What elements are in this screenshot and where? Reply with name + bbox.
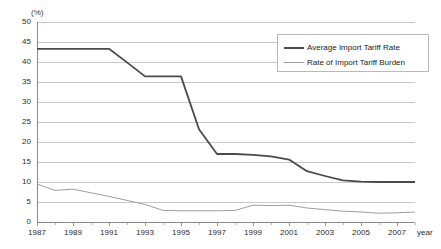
x-axis-tick-minor bbox=[199, 223, 200, 225]
x-axis-tick-major bbox=[253, 223, 254, 226]
x-axis-tick-major bbox=[397, 223, 398, 226]
y-axis-tick-label: 5 bbox=[7, 197, 31, 206]
x-axis-tick-minor bbox=[55, 223, 56, 225]
y-axis-tick-label: 20 bbox=[7, 137, 31, 146]
x-axis-tick-label: 1997 bbox=[197, 228, 237, 237]
x-axis-tick-label: 2001 bbox=[269, 228, 309, 237]
y-axis-tick-label: 45 bbox=[7, 37, 31, 46]
x-axis-tick-minor bbox=[343, 223, 344, 225]
x-axis-tick-major bbox=[109, 223, 110, 226]
x-axis-tick-major bbox=[73, 223, 74, 226]
x-axis-tick-minor bbox=[307, 223, 308, 225]
y-axis-tick-label: 50 bbox=[7, 17, 31, 26]
x-axis-tick-minor bbox=[415, 223, 416, 225]
x-axis-tick-minor bbox=[91, 223, 92, 225]
x-axis-title: year bbox=[417, 228, 433, 237]
legend-line-icon-primary bbox=[284, 47, 304, 49]
x-axis-tick-label: 1999 bbox=[233, 228, 273, 237]
legend-line-icon-secondary bbox=[284, 62, 304, 63]
x-axis-tick-label: 2007 bbox=[377, 228, 417, 237]
y-axis-tick-label: 35 bbox=[7, 77, 31, 86]
series-line bbox=[37, 184, 415, 213]
x-axis-tick-major bbox=[325, 223, 326, 226]
x-axis-tick-minor bbox=[271, 223, 272, 225]
legend-item-rate-of-import-tariff-burden: Rate of Import Tariff Burden bbox=[284, 55, 423, 70]
y-axis-unit-label: (%) bbox=[31, 8, 43, 17]
x-axis-tick-major bbox=[37, 223, 38, 226]
legend-box: Average Import Tariff Rate Rate of Impor… bbox=[277, 34, 429, 72]
x-axis-tick-minor bbox=[127, 223, 128, 225]
legend-label: Rate of Import Tariff Burden bbox=[307, 58, 405, 67]
x-axis-tick-minor bbox=[163, 223, 164, 225]
x-axis-tick-label: 1991 bbox=[89, 228, 129, 237]
y-axis-tick-label: 15 bbox=[7, 157, 31, 166]
x-axis-tick-label: 2005 bbox=[341, 228, 381, 237]
x-axis-tick-major bbox=[145, 223, 146, 226]
x-axis-tick-minor bbox=[379, 223, 380, 225]
x-axis-tick-label: 1989 bbox=[53, 228, 93, 237]
x-axis-tick-label: 1993 bbox=[125, 228, 165, 237]
y-axis-tick-label: 10 bbox=[7, 177, 31, 186]
chart-container: (%) 05101520253035404550 198719891991199… bbox=[0, 0, 441, 249]
x-axis-tick-label: 1987 bbox=[17, 228, 57, 237]
x-axis-tick-major bbox=[217, 223, 218, 226]
legend-item-average-import-tariff-rate: Average Import Tariff Rate bbox=[284, 40, 423, 55]
x-axis-tick-major bbox=[181, 223, 182, 226]
x-axis-tick-major bbox=[289, 223, 290, 226]
x-axis-line bbox=[37, 222, 415, 223]
y-axis-tick-label: 30 bbox=[7, 97, 31, 106]
x-axis-tick-minor bbox=[235, 223, 236, 225]
y-axis-tick-label: 40 bbox=[7, 57, 31, 66]
x-axis-tick-major bbox=[361, 223, 362, 226]
x-axis-tick-label: 2003 bbox=[305, 228, 345, 237]
y-axis-tick-label: 0 bbox=[7, 217, 31, 226]
legend-label: Average Import Tariff Rate bbox=[307, 43, 400, 52]
x-axis-tick-label: 1995 bbox=[161, 228, 201, 237]
y-axis-tick-label: 25 bbox=[7, 117, 31, 126]
